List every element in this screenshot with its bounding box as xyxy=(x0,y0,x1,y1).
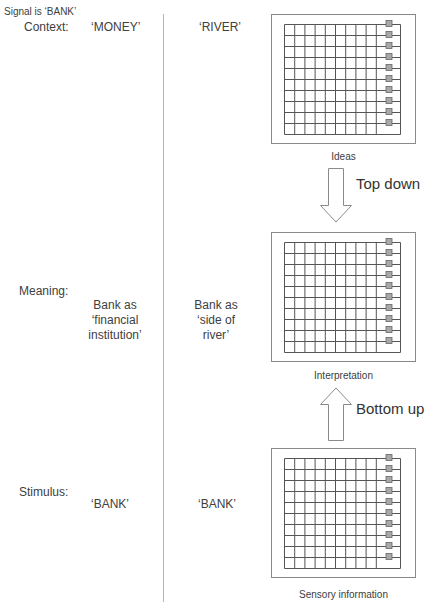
sensory-label: Sensory information xyxy=(271,587,416,602)
meaning-label: Meaning: xyxy=(19,284,68,299)
bottom-up-label: Bottom up xyxy=(356,401,424,416)
stimulus-label: Stimulus: xyxy=(19,485,68,500)
arrow-up-icon xyxy=(318,387,354,443)
stimulus-right: ‘BANK’ xyxy=(198,497,236,512)
arrow-down-icon xyxy=(318,168,354,224)
grid-icon xyxy=(272,15,417,145)
meaning-river: Bank as ‘side of river’ xyxy=(181,298,251,343)
interpretation-panel xyxy=(271,232,416,362)
interpretation-label: Interpretation xyxy=(271,368,416,383)
meaning-financial: Bank as ‘financial institution’ xyxy=(80,298,150,343)
ideas-panel xyxy=(271,14,416,144)
grid-icon xyxy=(272,233,417,363)
stimulus-left: ‘BANK’ xyxy=(91,497,129,512)
ideas-label: Ideas xyxy=(271,149,416,164)
column-divider xyxy=(163,14,164,602)
sensory-panel xyxy=(271,448,416,578)
context-river: ‘RIVER’ xyxy=(199,20,241,35)
top-down-label: Top down xyxy=(356,176,420,191)
signal-label: Signal is ‘BANK’ xyxy=(4,4,76,19)
context-label: Context: xyxy=(24,20,69,35)
grid-icon xyxy=(272,449,417,579)
context-money: ‘MONEY’ xyxy=(91,20,140,35)
